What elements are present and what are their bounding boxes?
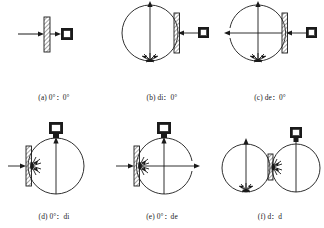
panel-f: (f) d：d (216, 114, 324, 228)
panel-d-artwork (0, 116, 108, 202)
detector (61, 28, 73, 40)
detection-beam-arrow (53, 137, 58, 194)
panel-a-caption: (a) 0°：0° (0, 91, 108, 102)
detector (157, 122, 171, 138)
vertical-beam-arrow (255, 1, 260, 60)
detector (306, 27, 317, 38)
incident-beam-arrow (116, 163, 134, 168)
sample-plate (44, 17, 50, 52)
panel-b-artwork (108, 0, 216, 72)
panel-f-caption: (f) d：d (216, 210, 324, 221)
incident-beam-arrow (18, 31, 44, 36)
vertical-beam-arrow (243, 138, 248, 190)
panel-e: (e) 0°：de (108, 114, 216, 228)
panel-e-caption: (e) 0°：de (108, 210, 216, 221)
detection-beam-arrow (178, 30, 200, 35)
panel-a: (a) 0°：0° (0, 0, 108, 114)
vertical-beam-arrow (147, 1, 152, 60)
panel-c: (c) de：0° (216, 0, 324, 114)
panel-b-caption: (b) di：0° (108, 91, 216, 102)
diffuse-burst-icon (239, 183, 253, 192)
exit-beam-arrow (50, 31, 61, 36)
specular-exclusion-port (224, 30, 282, 35)
detector (290, 127, 302, 142)
panel-f-artwork (216, 116, 324, 202)
detection-beam-arrow (286, 30, 308, 35)
figure-optical-geometries: (a) 0°：0° (0, 0, 324, 227)
panel-b: (b) di：0° (108, 0, 216, 114)
incident-beam-arrow (8, 163, 26, 168)
detection-beam-arrow (161, 137, 166, 194)
panel-c-caption: (c) de：0° (216, 91, 324, 102)
panel-d-caption: (d) 0°：di (0, 210, 108, 221)
detector (198, 27, 209, 38)
detector (49, 122, 63, 138)
panel-c-artwork (216, 0, 324, 72)
specular-exclusion-port (140, 163, 201, 168)
panel-e-artwork (108, 116, 216, 202)
panel-d: (d) 0°：di (0, 114, 108, 228)
panel-a-artwork (0, 0, 108, 72)
